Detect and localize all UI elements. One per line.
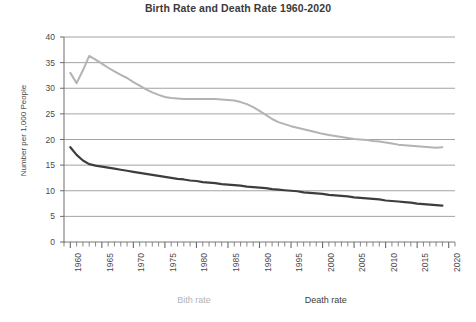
plot-area [0, 0, 476, 322]
data-series-lines [70, 56, 442, 206]
series-line-birth-rate [70, 56, 442, 148]
chart-legend: Bith rate Death rate [0, 296, 476, 305]
x-axis-minor-ticks [64, 242, 455, 248]
chart-container: Birth Rate and Death Rate 1960-2020 Numb… [0, 0, 476, 322]
legend-label-death-rate: Death rate [305, 296, 347, 305]
legend-entry-death-rate: Death rate [257, 296, 347, 305]
legend-entry-birth-rate: Bith rate [129, 296, 211, 305]
y-axis-major-ticks [60, 37, 64, 242]
axis-lines [64, 37, 455, 243]
gridlines [64, 37, 455, 216]
series-line-death-rate [70, 147, 442, 205]
legend-label-birth-rate: Bith rate [177, 296, 211, 305]
